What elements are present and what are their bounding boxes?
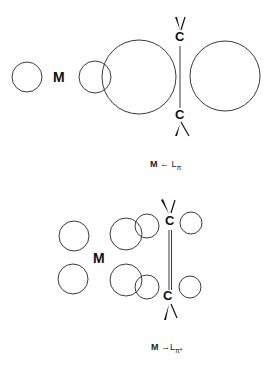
carbon-label-top: C: [175, 29, 184, 44]
caption-arrow-left: ←: [160, 159, 169, 169]
carbon-label-bottom: C: [163, 288, 172, 303]
hashed-bond-icon: [181, 122, 189, 136]
caption-arrow-right: →: [161, 342, 170, 352]
carbon-label-top: C: [165, 213, 174, 228]
metal-label: M: [93, 250, 105, 266]
caption-metal: M: [151, 342, 159, 352]
caption-subscript: π: [177, 164, 182, 171]
ligand-pi-star-lobe-upper-left: [135, 214, 159, 238]
wedge-bond-icon: [175, 124, 180, 136]
caption-back-donation: M →Lπ*: [151, 342, 183, 354]
ligand-pi-orbital-right-lobe: [190, 41, 260, 111]
caption-metal: M: [150, 159, 158, 169]
ligand-pi-star-lobe-upper-right: [180, 212, 202, 234]
wedge-bond-icon: [161, 199, 169, 214]
carbon-label-bottom: C: [175, 107, 184, 122]
ligand-pi-star-lobe-lower-left: [135, 275, 159, 299]
hashed-bond-icon: [171, 200, 175, 213]
caption-sigma-donation: M ← Lπ: [150, 159, 181, 171]
metal-d-orbital-lobe-upper-right: [110, 218, 142, 250]
top-diagram: [12, 17, 260, 136]
hashed-bond-icon: [171, 304, 177, 318]
metal-d-orbital-right-lobe: [79, 61, 111, 93]
metal-d-orbital-lobe-lower-left: [58, 264, 88, 294]
ligand-pi-star-lobe-lower-right: [179, 276, 201, 298]
metal-label: M: [53, 69, 65, 85]
bottom-diagram: [58, 199, 202, 320]
metal-d-orbital-lobe-upper-left: [59, 221, 89, 251]
metal-d-orbital-left-lobe: [12, 62, 42, 92]
caption-subscript: π*: [175, 347, 183, 354]
wedge-bond-icon: [164, 304, 169, 320]
orbital-diagram-canvas: [0, 0, 269, 365]
ligand-pi-orbital-left-lobe: [102, 40, 176, 114]
